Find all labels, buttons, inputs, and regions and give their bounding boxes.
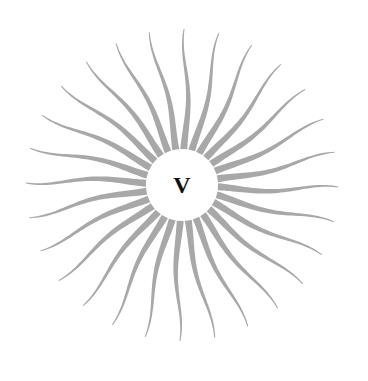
sun-ray [214, 119, 324, 175]
sun-ray [193, 217, 249, 327]
sun-ray [218, 183, 338, 193]
emblem-letter: V [173, 173, 190, 197]
sun-ray [180, 29, 190, 149]
sun-ray [26, 176, 146, 186]
sun-emblem: V [0, 0, 368, 381]
sun-ray [40, 196, 150, 252]
sun-ray [173, 221, 183, 341]
sun-ray [116, 43, 172, 153]
